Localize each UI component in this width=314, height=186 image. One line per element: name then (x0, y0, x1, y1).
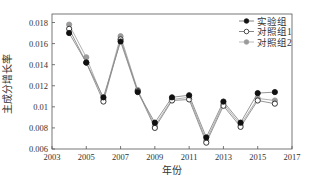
legend-item-2: 对照组1 (239, 26, 292, 37)
plot-border (52, 14, 292, 149)
legend-label: 对照组2 (257, 37, 292, 48)
chart-canvas: 0.0060.0080.010.0120.0140.0160.018 20032… (0, 0, 314, 186)
y-tick-label: 0.01 (33, 102, 48, 112)
data-point (101, 95, 106, 100)
y-axis: 0.0060.0080.010.0120.0140.0160.018 (29, 18, 55, 155)
y-tick-label: 0.014 (29, 60, 49, 70)
data-point (238, 120, 243, 125)
legend-marker-icon (244, 29, 249, 34)
data-point (152, 120, 157, 125)
data-point (255, 91, 260, 96)
y-tick-label: 0.016 (29, 39, 48, 49)
y-tick-label: 0.008 (29, 123, 48, 133)
legend-marker-icon (244, 19, 249, 24)
x-tick-label: 2015 (249, 152, 266, 162)
legend: 实验组对照组1对照组2 (239, 16, 292, 48)
series-line (69, 29, 275, 143)
plot-frame (52, 14, 292, 149)
x-tick-label: 2005 (78, 152, 95, 162)
y-axis-label: 主成分增长率 (1, 54, 13, 114)
data-point (272, 89, 277, 94)
y-tick-label: 0.018 (29, 18, 48, 28)
x-tick-label: 2017 (284, 152, 301, 162)
line-chart: 0.0060.0080.010.0120.0140.0160.018 20032… (0, 0, 314, 186)
data-point (272, 101, 277, 106)
x-tick-label: 2007 (112, 152, 129, 162)
x-tick-label: 2013 (215, 152, 232, 162)
legend-marker-icon (244, 40, 249, 45)
x-axis-label: 年份 (162, 164, 182, 176)
data-point (255, 98, 260, 103)
x-tick-label: 2003 (44, 152, 61, 162)
data-point (67, 30, 72, 35)
data-point (118, 39, 123, 44)
data-point (152, 125, 157, 130)
data-point (204, 140, 209, 145)
x-axis: 20032005200720092011201320152017 (44, 146, 301, 162)
data-point (221, 99, 226, 104)
data-point (135, 89, 140, 94)
x-tick-label: 2011 (181, 152, 198, 162)
series-1 (67, 30, 278, 140)
data-point (84, 60, 89, 65)
legend-label: 实验组 (257, 16, 287, 27)
data-point (187, 93, 192, 98)
legend-item-1: 实验组 (239, 16, 287, 27)
legend-label: 对照组1 (257, 26, 292, 37)
x-tick-label: 2009 (146, 152, 163, 162)
y-tick-label: 0.012 (29, 81, 48, 91)
data-point (169, 95, 174, 100)
legend-item-3: 对照组2 (239, 37, 292, 48)
data-point (204, 135, 209, 140)
